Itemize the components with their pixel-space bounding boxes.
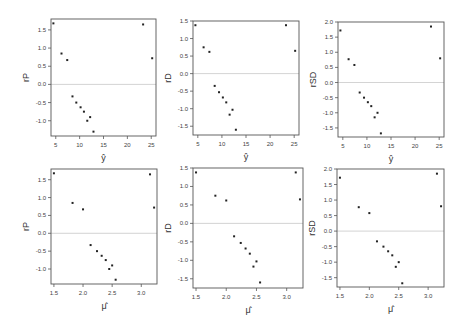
x-tick-label: 25 <box>436 143 443 149</box>
x-axis-title: ŷ <box>389 154 394 164</box>
y-tick-label: 1.5 <box>325 34 334 40</box>
y-tick-label: 0.0 <box>324 228 333 234</box>
x-tick-label: 2.5 <box>252 294 261 300</box>
data-point <box>436 173 438 175</box>
x-tick-label: 20 <box>124 142 131 148</box>
y-axis-title: rSD <box>308 71 318 87</box>
y-tick-label: -1.5 <box>178 123 189 129</box>
x-tick-label: 1.5 <box>192 294 201 300</box>
data-point <box>214 195 216 197</box>
data-point <box>377 112 379 114</box>
x-tick-label: 2.0 <box>222 294 231 300</box>
data-point <box>71 95 73 97</box>
data-point <box>249 253 251 255</box>
data-point <box>75 102 77 104</box>
data-point <box>245 247 247 249</box>
data-point <box>61 53 63 55</box>
data-point <box>359 92 361 94</box>
x-axis-title: μ̂ <box>101 301 108 311</box>
data-point <box>430 26 432 28</box>
x-tick-label: 2.0 <box>365 293 374 299</box>
data-point <box>111 264 113 266</box>
y-tick-label: 0.5 <box>38 63 47 69</box>
plot-frame <box>193 168 303 288</box>
data-point <box>259 281 261 283</box>
y-tick-label: 1.0 <box>180 36 189 42</box>
x-tick-label: 2.5 <box>108 290 117 296</box>
y-tick-label: 1.5 <box>38 177 47 183</box>
y-tick-label: -1.0 <box>322 259 333 265</box>
data-point <box>353 64 355 66</box>
data-point <box>299 198 301 200</box>
x-axis-title: μ̂ <box>245 305 252 315</box>
data-point <box>439 57 441 59</box>
data-point <box>101 255 103 257</box>
y-axis-title: rP <box>21 222 31 231</box>
plot-frame <box>338 22 444 137</box>
y-tick-label: 2.0 <box>325 19 334 25</box>
data-point <box>153 207 155 209</box>
x-tick-label: 1.5 <box>50 290 59 296</box>
y-tick-label: 0.5 <box>180 202 189 208</box>
y-tick-label: 0.0 <box>38 230 47 236</box>
residual-plots-figure: 5101520251.51.00.50.0-0.5-1.0ŷrP51015202… <box>0 0 469 327</box>
x-tick-label: 20 <box>412 143 419 149</box>
data-point <box>440 205 442 207</box>
scatter-panel-bottom-middle: 1.52.02.53.01.51.00.50.0-0.5-1.0-1.5μ̂rD <box>163 165 303 315</box>
data-point <box>252 266 254 268</box>
y-tick-label: 0.5 <box>180 53 189 59</box>
y-tick-label: 0.0 <box>325 80 334 86</box>
scatter-panel-top-middle: 5101520251.51.00.50.0-0.5-1.0-1.5ŷrD <box>163 18 299 162</box>
data-point <box>370 105 372 107</box>
data-point <box>225 101 227 103</box>
x-axis-title: ŷ <box>244 152 249 162</box>
data-point <box>294 50 296 52</box>
data-point <box>92 131 94 133</box>
data-point <box>395 266 397 268</box>
x-tick-label: 5 <box>341 143 345 149</box>
data-point <box>387 250 389 252</box>
plot-frame <box>51 19 156 136</box>
x-axis-title: μ̂ <box>388 304 395 314</box>
scatter-panel-top-left: 5101520251.51.00.50.0-0.5-1.0ŷrP <box>21 19 156 163</box>
x-axis-title: ŷ <box>101 153 106 163</box>
data-point <box>240 242 242 244</box>
y-axis-title: rSD <box>307 220 317 236</box>
y-tick-label: 1.0 <box>38 45 47 51</box>
data-point <box>363 97 365 99</box>
x-tick-label: 20 <box>267 141 274 147</box>
y-tick-label: 1.0 <box>38 195 47 201</box>
x-tick-label: 3.0 <box>137 290 146 296</box>
y-tick-label: -1.0 <box>36 266 47 272</box>
x-tick-label: 3.0 <box>424 293 433 299</box>
data-point <box>348 58 350 60</box>
data-point <box>142 23 144 25</box>
y-tick-label: -0.5 <box>322 244 333 250</box>
x-tick-label: 10 <box>76 142 83 148</box>
data-point <box>83 111 85 113</box>
y-tick-label: -1.0 <box>178 257 189 263</box>
data-point <box>255 260 257 262</box>
y-axis-title: rD <box>163 223 173 233</box>
x-tick-label: 15 <box>100 142 107 148</box>
y-tick-label: 0.0 <box>180 71 189 77</box>
data-point <box>52 22 54 24</box>
y-tick-label: 0.0 <box>180 220 189 226</box>
scatter-panel-bottom-right: 1.52.02.53.02.01.51.00.50.0-0.5-1.0-1.5μ… <box>307 166 444 314</box>
data-point <box>194 24 196 26</box>
y-tick-label: -0.5 <box>323 95 334 101</box>
x-tick-label: 15 <box>243 141 250 147</box>
data-point <box>225 199 227 201</box>
data-point <box>380 132 382 134</box>
data-point <box>90 244 92 246</box>
x-tick-label: 25 <box>291 141 298 147</box>
data-point <box>382 246 384 248</box>
data-point <box>72 202 74 204</box>
data-point <box>86 120 88 122</box>
y-tick-label: 0.5 <box>38 212 47 218</box>
data-point <box>339 177 341 179</box>
y-tick-label: 1.5 <box>180 165 189 171</box>
data-point <box>203 46 205 48</box>
y-axis-title: rP <box>21 73 31 82</box>
y-tick-label: 1.0 <box>180 183 189 189</box>
